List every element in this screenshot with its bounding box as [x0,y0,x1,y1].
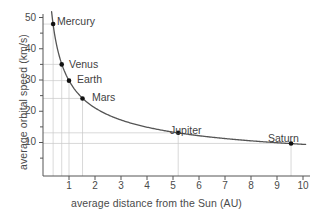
orbital-speed-chart: average distance from the Sun (AU) avera… [0,0,313,216]
point-label-jupiter: Jupiter [170,124,202,136]
point-label-saturn: Saturn [268,132,299,144]
gridlines-group [43,24,291,176]
y-tick-label-30: 30 [12,74,36,85]
point-label-venus: Venus [69,58,98,70]
x-tick-label-9: 9 [267,180,287,191]
x-tick-label-3: 3 [111,180,131,191]
point-label-earth: Earth [77,73,102,85]
x-tick-label-8: 8 [241,180,261,191]
y-tick-label-10: 10 [12,136,36,147]
point-label-mercury: Mercury [57,15,95,27]
y-tick-label-20: 20 [12,105,36,116]
point-label-mars: Mars [92,91,115,103]
data-point-earth [67,78,72,83]
x-tick-label-6: 6 [189,180,209,191]
x-axis-title: average distance from the Sun (AU) [0,197,313,209]
x-tick-label-7: 7 [215,180,235,191]
x-tick-label-1: 1 [59,180,79,191]
y-tick-label-50: 50 [12,12,36,23]
data-point-mercury [51,22,56,27]
data-point-mars [80,96,85,101]
data-point-venus [59,62,64,67]
x-tick-label-4: 4 [137,180,157,191]
x-tick-label-5: 5 [163,180,183,191]
x-tick-label-10: 10 [293,180,313,191]
y-tick-label-40: 40 [12,43,36,54]
axes-group [43,14,310,176]
x-tick-label-2: 2 [85,180,105,191]
